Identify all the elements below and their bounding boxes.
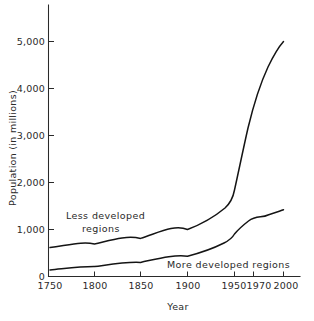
x-tick-label-1850: 1850 bbox=[129, 280, 154, 291]
x-tick-marks bbox=[95, 272, 284, 277]
chart-canvas: 5,000 4,000 3,000 2,000 1,000 0 1750 180… bbox=[0, 0, 314, 321]
x-tick-label-1800: 1800 bbox=[83, 280, 108, 291]
y-tick-label-1000: 1,000 bbox=[17, 224, 45, 235]
x-tick-label-1970: 1970 bbox=[247, 280, 272, 291]
x-tick-label-2000: 2000 bbox=[274, 280, 299, 291]
annotation-less-developed-regions: Less developed regions bbox=[66, 210, 145, 234]
y-axis-title: Population (in millions) bbox=[7, 90, 18, 206]
x-tick-label-1900: 1900 bbox=[176, 280, 201, 291]
y-tick-label-5000: 5,000 bbox=[17, 36, 45, 47]
y-tick-label-3000: 3,000 bbox=[17, 130, 45, 141]
population-growth-chart: 5,000 4,000 3,000 2,000 1,000 0 1750 180… bbox=[0, 0, 314, 321]
x-tick-label-1950: 1950 bbox=[222, 280, 247, 291]
annotation-less-developed-line-1: Less developed bbox=[66, 210, 145, 221]
axis-group bbox=[49, 5, 301, 277]
y-tick-label-2000: 2,000 bbox=[17, 177, 45, 188]
annotation-less-developed-line-2: regions bbox=[82, 223, 120, 234]
annotation-more-developed-regions: More developed regions bbox=[167, 259, 290, 270]
x-tick-labels: 1750 1800 1850 1900 1950 1970 2000 bbox=[38, 280, 299, 291]
y-tick-label-4000: 4,000 bbox=[17, 83, 45, 94]
x-axis-title: Year bbox=[166, 301, 188, 312]
x-tick-label-1750: 1750 bbox=[38, 280, 63, 291]
y-tick-labels: 5,000 4,000 3,000 2,000 1,000 0 bbox=[17, 36, 45, 282]
y-tick-marks bbox=[49, 42, 55, 230]
